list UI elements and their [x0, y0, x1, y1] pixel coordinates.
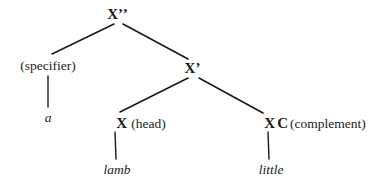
branch-xbar-to-head: [120, 78, 188, 112]
leaf-complement-word: little: [259, 161, 284, 177]
leaf-specifier-word: a: [45, 109, 52, 125]
branch-layer: [0, 0, 382, 185]
node-head: X(head): [116, 115, 165, 131]
syntax-tree-diagram: X’’ (specifier) X’ X(head) XC(complement…: [0, 0, 382, 185]
node-head-annotation: (head): [131, 116, 165, 131]
node-specifier: (specifier): [20, 57, 75, 73]
leaf-head-word: lamb: [104, 161, 131, 177]
node-complement-annotation: (complement): [290, 116, 366, 131]
node-complement-label: X: [264, 115, 275, 131]
node-complement-category: C: [277, 115, 288, 131]
node-root-label: X: [107, 6, 118, 22]
branch-complement-to-leaf: [268, 132, 269, 159]
leaf-specifier-word-text: a: [45, 110, 52, 125]
node-root-x-double-bar: X’’: [107, 6, 129, 22]
branch-xbar-to-complement: [199, 78, 263, 113]
node-head-label: X: [116, 115, 127, 131]
node-x-bar: X’: [185, 60, 202, 76]
branch-root-to-xbar: [123, 24, 188, 59]
branch-root-to-specifier: [52, 24, 114, 54]
leaf-complement-word-text: little: [259, 162, 284, 177]
node-root-primes: ’’: [118, 6, 129, 22]
node-specifier-label: (specifier): [20, 58, 75, 73]
node-x-bar-primes: ’: [195, 60, 201, 76]
branch-head-to-leaf: [115, 132, 116, 159]
node-x-bar-label: X: [185, 60, 196, 76]
leaf-head-word-text: lamb: [104, 162, 131, 177]
node-complement: XC(complement): [264, 115, 365, 131]
